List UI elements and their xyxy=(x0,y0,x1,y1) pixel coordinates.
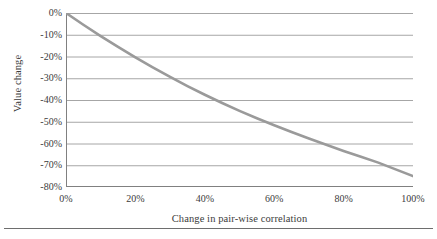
chart-figure: Value change 0%-10%-20%-30%-40%-50%-60%-… xyxy=(0,0,437,239)
data-series xyxy=(66,13,413,176)
y-axis-tick-label: -30% xyxy=(20,73,62,83)
x-axis-tick-label: 60% xyxy=(249,194,299,204)
x-axis-tick-label: 100% xyxy=(388,194,437,204)
x-axis-tick-label: 20% xyxy=(110,194,160,204)
y-axis-tick-label: 0% xyxy=(20,8,62,18)
y-axis-tick-label: -70% xyxy=(20,160,62,170)
y-axis-tick-label: -60% xyxy=(20,139,62,149)
x-axis-title: Change in pair-wise correlation xyxy=(66,213,413,224)
y-axis-tick-label: -20% xyxy=(20,52,62,62)
y-axis-tick-label: -80% xyxy=(20,182,62,192)
y-axis-tick-label: -10% xyxy=(20,30,62,40)
x-axis-tick-label: 0% xyxy=(41,194,91,204)
y-axis-tick-label: -50% xyxy=(20,117,62,127)
x-axis-tick-label: 80% xyxy=(319,194,369,204)
chart-canvas xyxy=(66,13,413,187)
series-line xyxy=(66,13,413,176)
footer-rule xyxy=(4,228,433,229)
x-axis-tick-labels: 0%20%40%60%80%100% xyxy=(0,194,437,208)
plot-area xyxy=(66,13,413,187)
y-axis-tick-label: -40% xyxy=(20,95,62,105)
x-axis-tick-label: 40% xyxy=(180,194,230,204)
gridlines xyxy=(66,14,413,188)
